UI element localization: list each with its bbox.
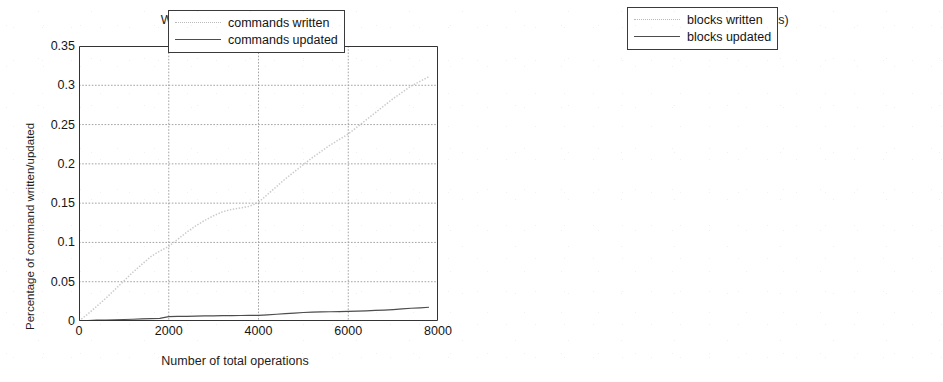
chart-write-update-cdf-commands: Write update CDF (commands) Percentage o… [0, 0, 471, 382]
x-tick-label: 4000 [245, 324, 273, 338]
y-tick-label: 0.2 [58, 157, 75, 171]
legend-label: blocks written [687, 13, 763, 27]
grid-lines [79, 46, 438, 321]
legend: blocks written blocks updated [627, 7, 778, 50]
plot-area: 00.050.10.150.20.250.30.35 0200040006000… [79, 46, 438, 321]
x-tick-label: 8000 [424, 324, 452, 338]
legend-item-blocks-written: blocks written [634, 11, 771, 28]
series-lines [79, 77, 429, 321]
legend-label: blocks updated [687, 30, 771, 44]
dotted-line-icon [175, 22, 221, 23]
series-line [79, 307, 429, 321]
legend-item-commands-updated: commands updated [175, 31, 338, 48]
x-axis-label: Number of total operations [70, 354, 400, 368]
legend-item-commands-written: commands written [175, 14, 338, 31]
solid-line-icon [175, 39, 221, 40]
x-tick-label: 6000 [334, 324, 362, 338]
solid-line-icon [634, 36, 680, 37]
legend-item-blocks-updated: blocks updated [634, 28, 771, 45]
y-tick-label: 0.3 [58, 78, 75, 92]
legend-label: commands written [228, 16, 329, 30]
x-tick-label: 0 [76, 324, 83, 338]
y-tick-label: 0.15 [51, 196, 75, 210]
y-axis-label: Percentage of command written/updated [24, 123, 36, 330]
series-line [79, 77, 429, 321]
plot-canvas [79, 46, 438, 321]
axis-frame [80, 47, 438, 321]
chart-write-update-cdf-blocks: Write update CDF (blocks) Percentage of … [471, 0, 943, 382]
figure-row: Write update CDF (commands) Percentage o… [0, 0, 943, 382]
x-tick-label: 2000 [155, 324, 183, 338]
y-tick-label: 0.1 [58, 235, 75, 249]
y-tick-label: 0.05 [51, 275, 75, 289]
y-tick-label: 0.25 [51, 118, 75, 132]
y-tick-label: 0.35 [51, 39, 75, 53]
y-tick-label: 0 [68, 314, 75, 328]
legend: commands written commands updated [168, 10, 345, 53]
dotted-line-icon [634, 19, 680, 20]
legend-label: commands updated [228, 33, 338, 47]
